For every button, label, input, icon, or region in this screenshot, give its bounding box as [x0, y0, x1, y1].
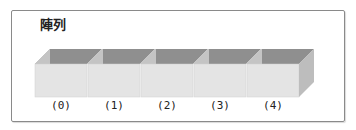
cell-index-label-3: (3): [193, 99, 247, 112]
array-cell-4: [247, 49, 314, 97]
cell-index-label-1: (1): [87, 99, 141, 112]
cell-index-label-0: (0): [34, 99, 88, 112]
cell-index-label-2: (2): [140, 99, 194, 112]
cell-index-label-4: (4): [246, 99, 300, 112]
